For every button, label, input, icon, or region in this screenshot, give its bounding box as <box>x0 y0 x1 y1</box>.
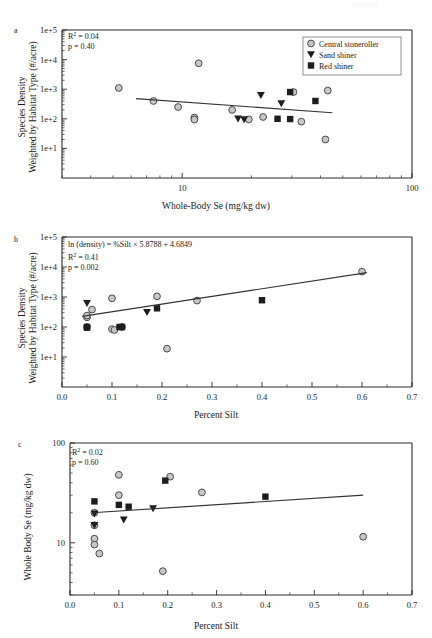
legend-label-1: Sand shiner <box>319 51 357 60</box>
data-point-square <box>119 324 125 330</box>
data-point-circle <box>175 104 182 111</box>
data-point-square <box>259 297 265 303</box>
legend-label-0: Central stoneroller <box>319 40 379 49</box>
data-point-circle <box>298 118 305 125</box>
data-point-circle <box>96 550 103 557</box>
panel-c-xtick-label: 0.5 <box>309 600 320 610</box>
panel-b-yaxis-title-line1: Species Density <box>17 287 27 348</box>
panel-a-xtick-label: 10 <box>178 183 187 193</box>
data-point-square <box>287 116 293 122</box>
panel-c-data-points <box>91 471 367 574</box>
panel-b-xtick-label: 0.5 <box>307 392 318 402</box>
data-point-square <box>262 493 268 499</box>
data-point-circle <box>91 541 98 548</box>
panel-a-yaxis-title-line2: Weighted by Habitat Type (#/acre) <box>28 41 39 172</box>
data-point-circle <box>199 489 206 496</box>
panel-a-legend: Central stonerollerSand shinerRed shiner <box>303 37 401 75</box>
panel-b-ytick-label: 1e+5 <box>40 232 57 242</box>
panel-b-trend-line <box>82 273 367 317</box>
panel-c-xaxis-title: Percent Silt <box>194 621 238 631</box>
data-point-square <box>162 477 168 483</box>
panel-a-ytick-label: 1e+2 <box>40 114 57 124</box>
panel-b-trendline <box>82 273 367 317</box>
panel-c-xtick-label: 0.7 <box>407 600 418 610</box>
data-point-square <box>125 504 131 510</box>
data-point-circle <box>308 40 315 47</box>
data-point-circle <box>109 295 116 302</box>
panel-a-ytick-label: 1e+5 <box>40 25 57 35</box>
panel-b-p-annotation: p = 0.002 <box>68 263 99 272</box>
data-point-circle <box>164 345 171 352</box>
data-point-circle <box>260 114 267 121</box>
panel-c-tick-labels: 101000.00.10.20.30.40.50.60.7 <box>52 438 417 610</box>
data-point-circle <box>150 98 157 105</box>
panel-b-yaxis-title-line2: Weighted by Habitat Type (#/acre) <box>28 252 39 383</box>
panel-a-r2-annotation: R2 = 0.04 <box>68 31 99 41</box>
panel-b-xtick-label: 0.3 <box>207 392 218 402</box>
data-point-square <box>274 116 280 122</box>
panel-b-ytick-label: 1e+3 <box>40 292 57 302</box>
data-point-triangle <box>83 300 91 307</box>
panel-b-xtick-label: 0.4 <box>257 392 268 402</box>
data-point-circle <box>115 492 122 499</box>
data-point-circle <box>360 533 367 540</box>
data-point-circle <box>229 106 236 113</box>
panel-b-xtick-label: 0.2 <box>157 392 168 402</box>
panel-b-xaxis-title: Percent Silt <box>194 410 238 420</box>
panel-c-xtick-label: 0.0 <box>65 600 76 610</box>
panel-b-ytick-label: 1e+2 <box>40 322 57 332</box>
panel-c-trend-line <box>92 495 363 513</box>
data-point-triangle <box>120 516 128 523</box>
panel-c-trendline <box>92 495 363 513</box>
panel-c-ytick-label: 100 <box>52 438 65 448</box>
panel-a-data-points <box>115 60 331 143</box>
panel-b-letter: b <box>14 235 18 244</box>
data-point-circle <box>324 87 331 94</box>
panel-a-xtick-label: 100 <box>406 183 419 193</box>
data-point-square <box>91 498 97 504</box>
data-point-square <box>287 89 293 95</box>
panel-b-ytick-label: 1e+4 <box>40 262 58 272</box>
panel-a-ytick-label: 1e+1 <box>40 143 57 153</box>
figure-root: 1e+11e+21e+31e+41e+510100 Central stoner… <box>0 0 432 638</box>
data-point-circle <box>195 60 202 67</box>
panel-c-ytick-label: 10 <box>57 538 66 548</box>
panel-a-ytick-label: 1e+4 <box>40 55 58 65</box>
data-point-triangle <box>277 100 285 107</box>
panel-b-xtick-label: 0.1 <box>107 392 118 402</box>
data-point-circle <box>191 116 198 123</box>
panel-b-plot: 1e+11e+21e+31e+41e+50.00.10.20.30.40.50.… <box>0 215 432 427</box>
panel-a: 1e+11e+21e+31e+41e+510100 Central stoner… <box>0 0 432 215</box>
panel-b-equation: ln (density) = %Silt × 5.8788 + 4.6849 <box>68 240 192 249</box>
panel-a-plot: 1e+11e+21e+31e+41e+510100 Central stoner… <box>0 0 432 215</box>
panel-c-xtick-label: 0.3 <box>211 600 222 610</box>
panel-b: 1e+11e+21e+31e+41e+50.00.10.20.30.40.50.… <box>0 215 432 427</box>
panel-b-ytick-label: 1e+1 <box>40 352 57 362</box>
data-point-triangle <box>143 309 151 316</box>
panel-c-p-annotation: p = 0.60 <box>72 458 99 467</box>
panel-c-letter: c <box>18 440 22 449</box>
data-point-circle <box>115 471 122 478</box>
panel-c-xtick-label: 0.6 <box>358 600 369 610</box>
panel-c-plot: 101000.00.10.20.30.40.50.60.7 R2 = 0.02 … <box>0 427 432 638</box>
legend-label-2: Red shiner <box>319 62 354 71</box>
data-point-circle <box>115 85 122 92</box>
panel-b-xtick-label: 0.0 <box>57 392 68 402</box>
panel-a-yaxis-title-line1: Species Density <box>17 76 27 137</box>
data-point-square <box>308 62 314 68</box>
panel-b-xtick-label: 0.7 <box>407 392 418 402</box>
panel-c-xtick-label: 0.4 <box>260 600 271 610</box>
data-point-square <box>116 502 122 508</box>
data-point-square <box>154 305 160 311</box>
panel-b-r2-annotation: R2 = 0.41 <box>68 252 99 262</box>
panel-c-xtick-label: 0.2 <box>162 600 173 610</box>
data-point-square <box>312 98 318 104</box>
panel-c: 101000.00.10.20.30.40.50.60.7 R2 = 0.02 … <box>0 427 432 638</box>
panel-a-ytick-label: 1e+3 <box>40 84 57 94</box>
panel-a-xaxis-title: Whole-Body Se (mg/kg dw) <box>162 201 270 212</box>
panel-c-xtick-label: 0.1 <box>114 600 125 610</box>
data-point-circle <box>322 136 329 143</box>
data-point-circle <box>159 568 166 575</box>
data-point-triangle <box>257 92 265 99</box>
panel-b-xtick-label: 0.6 <box>357 392 368 402</box>
